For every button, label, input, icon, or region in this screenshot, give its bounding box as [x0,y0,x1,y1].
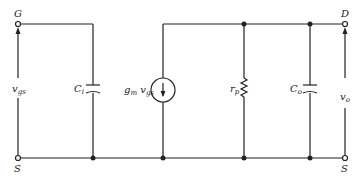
junction-dot [161,156,166,161]
circuit-diagram [0,0,364,179]
label-vo: vo [340,92,350,104]
resistor-rp [241,78,247,97]
capacitor-co-plate2 [303,92,317,94]
label-gate: G [14,9,22,19]
terminal-source-left [16,156,21,161]
label-rp: rp [230,84,239,96]
capacitor-ci-plate2 [86,92,100,94]
label-vgs: vgs [12,84,26,96]
label-gm-vgs: gm vgs [124,85,154,97]
terminal-gate [16,22,21,27]
terminal-drain [343,22,348,27]
junction-dot [308,156,313,161]
label-drain: D [341,9,349,19]
label-source-right: S [341,164,348,174]
junction-dot [91,156,96,161]
label-source-left: S [14,164,21,174]
label-ci: Ci [74,84,84,96]
terminal-source-right [343,156,348,161]
junction-dot [242,22,247,27]
junction-dot [308,22,313,27]
label-co: Co [290,84,302,96]
junction-dot [242,156,247,161]
